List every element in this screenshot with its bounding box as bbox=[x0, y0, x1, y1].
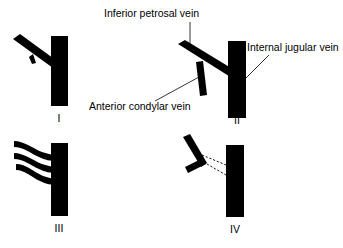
panel-1-group: I bbox=[13, 34, 68, 124]
label-inferior-petrosal-vein: Inferior petrosal vein bbox=[104, 7, 199, 19]
panel-1-tributary-branch bbox=[29, 54, 36, 64]
panel-3-group: III bbox=[14, 141, 68, 234]
leader-anterior-condylar-vein bbox=[155, 77, 199, 101]
panel-4-internal-jugular-vein bbox=[226, 145, 244, 217]
panel-2-anterior-condylar-vein bbox=[196, 61, 207, 96]
panel-1-internal-jugular-vein bbox=[51, 36, 68, 106]
panel-4-absent-connection-lower bbox=[200, 160, 226, 175]
anatomical-figure: I II III bbox=[0, 0, 343, 248]
panel-4-numeral: IV bbox=[230, 223, 240, 235]
figure-canvas: I II III bbox=[0, 0, 343, 248]
panel-2-inferior-petrosal-vein bbox=[178, 40, 236, 78]
label-anterior-condylar-vein: Anterior condylar vein bbox=[89, 100, 191, 112]
panel-2-numeral: II bbox=[234, 114, 240, 126]
panel-2-internal-jugular-vein bbox=[228, 41, 246, 118]
label-internal-jugular-vein: Internal jugular vein bbox=[247, 41, 339, 53]
panel-1-numeral: I bbox=[58, 112, 61, 124]
panel-3-numeral: III bbox=[55, 222, 64, 234]
leader-internal-jugular-vein bbox=[246, 55, 269, 78]
panel-4-vein-lower-limb bbox=[185, 158, 206, 173]
panel-4-group: IV bbox=[183, 134, 244, 235]
